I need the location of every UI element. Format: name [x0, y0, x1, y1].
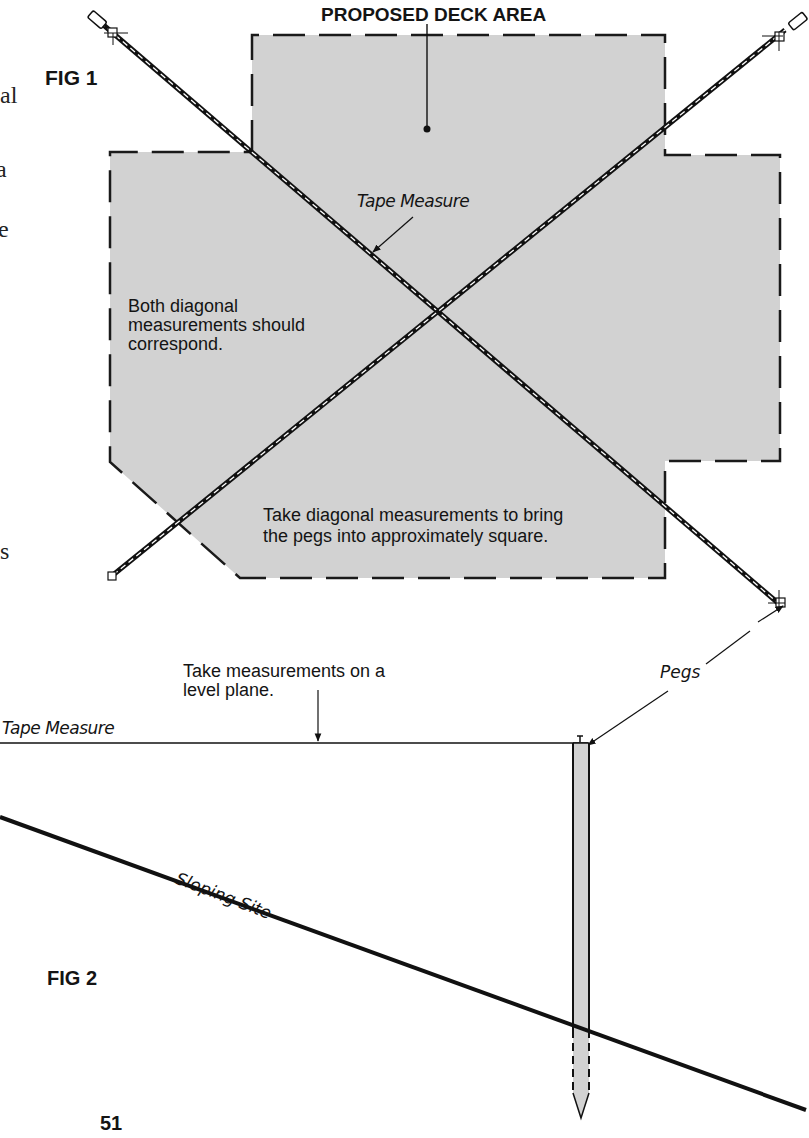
note-diagonals-line-1: Both diagonal	[128, 297, 305, 316]
sloping-site-line	[0, 817, 806, 1110]
peg-stake	[573, 736, 589, 1118]
margin-fragment-2: a	[0, 156, 7, 183]
margin-fragment-4: s	[0, 538, 9, 565]
tape-measure-label-fig2: Tape Measure	[2, 718, 114, 738]
fig1-title: FIG 1	[45, 66, 98, 90]
note-square: Take diagonal measurements to bring the …	[263, 505, 563, 547]
level-plane-note-line-2: level plane.	[183, 681, 385, 700]
note-diagonals: Both diagonal measurements should corres…	[128, 297, 305, 354]
tape-measure-label-fig1: Tape Measure	[357, 191, 469, 211]
pegs-label: Pegs	[660, 662, 700, 682]
margin-fragment-3: e	[0, 216, 9, 243]
note-diagonals-line-2: measurements should	[128, 316, 305, 335]
page-number: 51	[100, 1112, 122, 1135]
note-diagonals-line-3: correspond.	[128, 335, 305, 354]
diagram-canvas	[0, 0, 809, 1138]
fig2-title: FIG 2	[47, 967, 97, 990]
deck-area-label: PROPOSED DECK AREA	[321, 4, 546, 26]
note-square-line-1: Take diagonal measurements to bring	[263, 505, 563, 526]
margin-fragment-1: al	[0, 82, 17, 109]
note-square-line-2: the pegs into approximately square.	[263, 526, 563, 547]
level-plane-note: Take measurements on a level plane.	[183, 662, 385, 700]
level-plane-note-line-1: Take measurements on a	[183, 662, 385, 681]
